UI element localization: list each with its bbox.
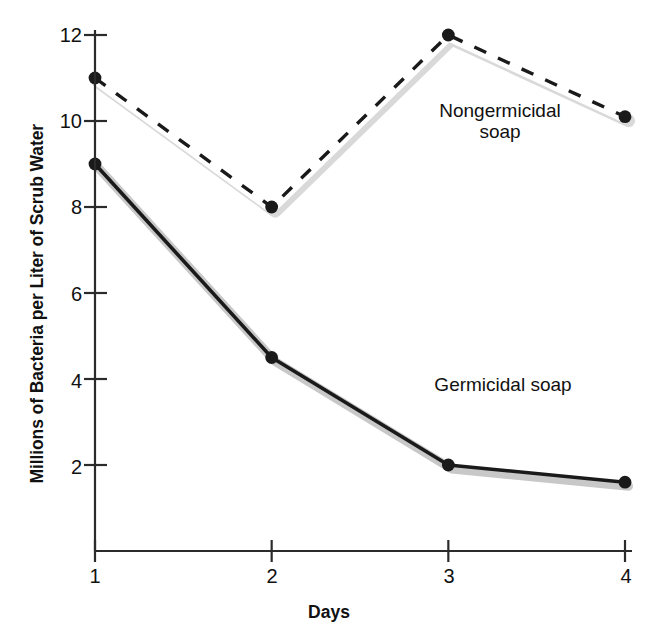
data-point [442,459,455,472]
data-point [265,201,278,214]
data-point [442,29,455,42]
line-chart: Millions of Bacteria per Liter of Scrub … [0,0,658,636]
data-point [265,351,278,364]
axis-lines [95,30,632,551]
plot-area [0,0,658,636]
series-line-nongermicidal [95,35,625,207]
series-line-germicidal [95,164,625,482]
axis-ticks [84,35,625,562]
data-point [619,476,632,489]
series-shadow-germicidal [99,168,629,486]
data-point-group [89,29,632,489]
data-point [619,110,632,123]
line-shadow-group [99,39,629,486]
